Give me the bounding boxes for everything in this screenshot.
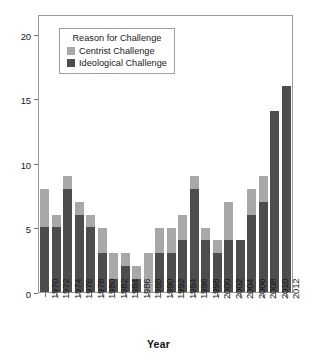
chart-legend: Reason for Challenge Centrist ChallengeI…	[59, 28, 175, 74]
bar-2006	[247, 189, 256, 292]
bar-1996	[190, 176, 199, 292]
x-axis-tick-mark	[263, 293, 264, 297]
x-axis-tick-label: 2008	[267, 279, 278, 299]
y-axis-tick-label: 5	[26, 224, 31, 235]
x-axis-tick-mark	[160, 293, 161, 297]
bar-segment-centrist	[201, 228, 210, 241]
x-axis-tick-label: 1982	[118, 279, 129, 299]
bar-segment-ideological	[40, 227, 49, 292]
x-axis-tick-label: 2006	[256, 279, 267, 299]
bar-segment-centrist	[178, 215, 187, 241]
x-axis-tick-mark	[114, 293, 115, 297]
y-axis-tick: 20	[21, 29, 38, 41]
x-axis-tick-label: 1992	[175, 279, 186, 299]
bar-segment-centrist	[52, 215, 61, 228]
legend-title: Reason for Challenge	[67, 33, 167, 43]
x-axis-tick-mark	[148, 293, 149, 297]
x-axis-tick-label: 1986	[141, 279, 152, 299]
x-axis-tick-mark	[183, 293, 184, 297]
x-axis-tick-mark	[252, 293, 253, 297]
x-axis-tick-mark	[102, 293, 103, 297]
x-axis-tick-label: 1978	[95, 279, 106, 299]
x-axis-tick-label: 1972	[60, 279, 71, 299]
x-axis-tick-mark	[229, 293, 230, 297]
y-axis-tick-label: 20	[21, 31, 31, 42]
bar-segment-centrist	[247, 189, 256, 215]
x-axis-tick-label: 2000	[221, 279, 232, 299]
y-axis-tick: 10	[21, 158, 38, 170]
bar-segment-ideological	[63, 189, 72, 292]
x-axis-tick-label: 2004	[244, 279, 255, 299]
bar-segment-centrist	[98, 228, 107, 254]
legend-label: Ideological Challenge	[79, 58, 167, 68]
y-axis-tick: 0	[26, 287, 38, 299]
bar-segment-centrist	[213, 240, 222, 253]
x-axis-tick-label: 1984	[129, 279, 140, 299]
x-axis-tick-label: 1996	[198, 279, 209, 299]
bar-2008	[259, 176, 268, 292]
x-axis-tick-mark	[45, 293, 46, 297]
bar-1974	[63, 176, 72, 292]
x-axis-tick-label: 1998	[210, 279, 221, 299]
x-axis-tick-label: 2012	[290, 279, 301, 299]
x-axis-tick-mark	[240, 293, 241, 297]
x-axis-tick-mark	[137, 293, 138, 297]
x-axis-tick-mark	[91, 293, 92, 297]
x-axis-tick-mark	[79, 293, 80, 297]
y-axis-tick-label: 15	[21, 95, 31, 106]
x-axis-tick-mark	[56, 293, 57, 297]
bar-segment-centrist	[259, 176, 268, 202]
bar-segment-ideological	[190, 189, 199, 292]
bar-segment-centrist	[167, 228, 176, 254]
x-axis-tick-label: 1988	[152, 279, 163, 299]
chart-figure: 05101520 1970197219741976197819801982198…	[0, 0, 317, 360]
bar-segment-centrist	[40, 189, 49, 228]
x-axis-tick-label: 1980	[106, 279, 117, 299]
x-axis-tick-label: 1990	[164, 279, 175, 299]
bar-segment-centrist	[75, 202, 84, 215]
x-axis-tick-mark	[275, 293, 276, 297]
bar-segment-centrist	[155, 228, 164, 254]
bar-segment-centrist	[63, 176, 72, 189]
x-axis-tick-label: 1976	[83, 279, 94, 299]
x-axis-tick-label: 1974	[72, 279, 83, 299]
legend-entries: Centrist ChallengeIdeological Challenge	[67, 46, 167, 68]
y-axis-tick-label: 10	[21, 160, 31, 171]
bar-segment-ideological	[282, 86, 291, 292]
y-axis-tick: 15	[21, 93, 38, 105]
x-axis-tick-mark	[206, 293, 207, 297]
x-axis-tick-mark	[171, 293, 172, 297]
bar-segment-centrist	[190, 176, 199, 189]
bar-2012	[282, 86, 291, 292]
y-axis: 05101520	[0, 0, 38, 360]
x-axis-tick-mark	[125, 293, 126, 297]
x-axis-tick-mark	[286, 293, 287, 297]
bar-segment-centrist	[132, 266, 141, 279]
bar-segment-centrist	[224, 202, 233, 241]
bar-segment-ideological	[270, 111, 279, 292]
legend-label: Centrist Challenge	[79, 46, 155, 56]
legend-item-ideological: Ideological Challenge	[67, 58, 167, 68]
x-axis-title: Year	[0, 338, 317, 350]
x-axis-tick-label: 2002	[233, 279, 244, 299]
x-axis-tick-label: 2010	[279, 279, 290, 299]
legend-swatch	[67, 47, 75, 55]
bar-2010	[270, 111, 279, 292]
x-axis-tick-mark	[68, 293, 69, 297]
x-axis-tick-label: 1970	[49, 279, 60, 299]
y-axis-tick: 5	[26, 222, 38, 234]
bar-segment-centrist	[86, 215, 95, 228]
x-axis-tick-mark	[194, 293, 195, 297]
x-axis-tick-mark	[217, 293, 218, 297]
bar-segment-centrist	[109, 253, 118, 279]
x-axis-tick-label: 1994	[187, 279, 198, 299]
y-axis-tick-label: 0	[26, 289, 31, 300]
legend-swatch	[67, 59, 75, 67]
bar-1970	[40, 189, 49, 292]
legend-item-centrist: Centrist Challenge	[67, 46, 167, 56]
bar-segment-centrist	[121, 253, 130, 266]
